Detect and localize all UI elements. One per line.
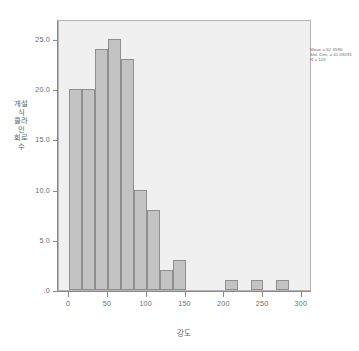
y-tick-mark xyxy=(53,140,58,141)
plot-frame xyxy=(58,20,311,291)
x-tick-mark xyxy=(146,292,147,297)
y-tick-label: 25.0 xyxy=(35,35,50,44)
x-tick-mark xyxy=(185,292,186,297)
histogram-bar xyxy=(276,280,289,290)
x-tick-mark xyxy=(107,292,108,297)
histogram-bar xyxy=(251,280,264,290)
histogram-bar xyxy=(134,190,147,290)
x-tick-label: 250 xyxy=(256,299,269,308)
histogram-figure: .05.010.015.020.025.0 050100150200250300… xyxy=(0,0,359,351)
x-tick-mark xyxy=(262,292,263,297)
plot-area xyxy=(59,21,310,290)
histogram-bar xyxy=(121,59,134,290)
y-tick-mark xyxy=(53,40,58,41)
y-tick-label: 15.0 xyxy=(35,135,50,144)
x-tick-mark xyxy=(68,292,69,297)
x-tick-mark xyxy=(223,292,224,297)
x-tick-label: 0 xyxy=(66,299,70,308)
histogram-bar xyxy=(82,89,95,290)
y-tick-label: 10.0 xyxy=(35,186,50,195)
x-tick-mark xyxy=(301,292,302,297)
y-axis-line xyxy=(57,20,58,291)
histogram-bar xyxy=(160,270,173,290)
y-tick-label: 5.0 xyxy=(39,236,50,245)
y-tick-mark xyxy=(53,90,58,91)
y-tick-label: 20.0 xyxy=(35,85,50,94)
y-tick-mark xyxy=(53,291,58,292)
y-tick-label: .0 xyxy=(44,286,50,295)
x-tick-label: 50 xyxy=(103,299,111,308)
stat-n: N = 125 xyxy=(310,57,358,62)
x-tick-label: 300 xyxy=(295,299,308,308)
x-tick-label: 200 xyxy=(217,299,230,308)
histogram-bar xyxy=(108,39,121,290)
histogram-bar xyxy=(147,210,160,290)
y-tick-mark xyxy=(53,241,58,242)
x-axis-title: 강도 xyxy=(58,327,311,338)
y-tick-mark xyxy=(53,191,58,192)
histogram-bar xyxy=(95,49,108,290)
histogram-bar xyxy=(69,89,82,290)
statistics-annotation: Mean = 62.3596 Std. Dev. = 41.09291 N = … xyxy=(310,47,358,63)
y-axis-title: 개설식 클라인 회로 수 xyxy=(14,100,28,152)
histogram-bar xyxy=(225,280,238,290)
histogram-bar xyxy=(173,260,186,290)
x-tick-label: 100 xyxy=(139,299,152,308)
x-tick-label: 150 xyxy=(178,299,191,308)
